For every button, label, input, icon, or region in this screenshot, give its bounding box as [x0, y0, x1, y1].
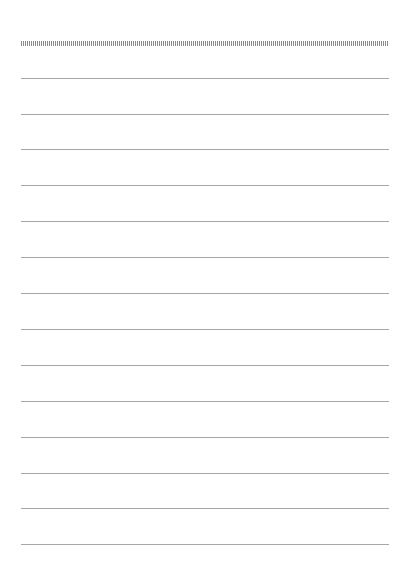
perforation-tick-strip: [21, 41, 389, 46]
ruled-line: [21, 437, 389, 438]
ruled-line: [21, 185, 389, 186]
ruled-line: [21, 365, 389, 366]
ruled-line: [21, 78, 389, 79]
ruled-line: [21, 257, 389, 258]
ruled-line: [21, 508, 389, 509]
ruled-line: [21, 221, 389, 222]
ruled-line: [21, 149, 389, 150]
ruled-line: [21, 293, 389, 294]
ruled-line: [21, 544, 389, 545]
lined-paper-page: [0, 0, 406, 571]
ruled-line: [21, 473, 389, 474]
ruled-line: [21, 329, 389, 330]
ruled-line: [21, 401, 389, 402]
ruled-line: [21, 114, 389, 115]
